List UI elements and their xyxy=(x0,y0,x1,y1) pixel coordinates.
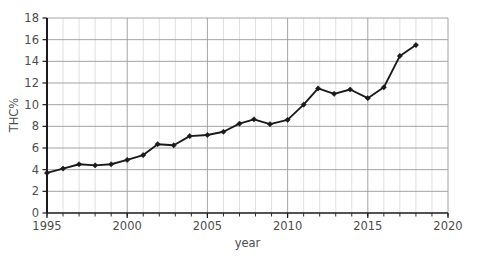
x-tick-label: 2010 xyxy=(273,219,302,233)
x-axis-title: year xyxy=(235,236,261,250)
y-tick-label: 4 xyxy=(32,163,39,177)
x-tick-label: 1995 xyxy=(32,219,61,233)
plot-background xyxy=(47,18,448,213)
y-tick-label: 14 xyxy=(24,54,39,68)
y-axis-tick-labels: 024681012141618 xyxy=(24,11,39,220)
page-text-fragment-below-figure xyxy=(0,252,477,261)
y-tick-label: 18 xyxy=(24,11,39,25)
x-tick-label: 2000 xyxy=(113,219,142,233)
x-axis-tick-labels: 199520002005201020152020 xyxy=(32,219,462,233)
y-tick-label: 12 xyxy=(24,76,39,90)
x-axis-major-ticks xyxy=(47,213,448,218)
y-axis-title: THC% xyxy=(7,98,21,134)
y-tick-label: 0 xyxy=(32,206,39,220)
y-tick-label: 8 xyxy=(32,119,39,133)
x-tick-label: 2015 xyxy=(353,219,382,233)
y-tick-label: 16 xyxy=(24,33,39,47)
y-tick-label: 10 xyxy=(24,98,39,112)
chart-canvas: 199520002005201020152020 024681012141618… xyxy=(0,0,477,261)
y-tick-label: 6 xyxy=(32,141,39,155)
x-tick-label: 2005 xyxy=(193,219,222,233)
y-tick-label: 2 xyxy=(32,184,39,198)
x-tick-label: 2020 xyxy=(433,219,462,233)
thc-line-chart: 199520002005201020152020 024681012141618… xyxy=(0,0,477,261)
